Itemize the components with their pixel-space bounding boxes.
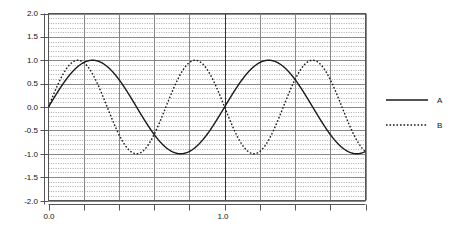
y-tick-label-1-5: 1.5 <box>12 32 38 41</box>
x-tick-label-1: 1.0 <box>208 212 238 221</box>
y-tick-label-1: 1.0 <box>12 56 38 65</box>
x-axis-ticks <box>50 205 367 211</box>
y-tick-label-neg-0-5: -0.5 <box>12 126 38 135</box>
chart-figure: 2.0 1.5 1.0 0.5 0.0 -0.5 -1.0 -1.5 -2.0 … <box>0 0 458 235</box>
legend-label-a: A <box>437 96 442 105</box>
y-tick-label-neg-1-5: -1.5 <box>12 173 38 182</box>
plot-canvas <box>0 0 458 235</box>
y-tick-label-neg-1: -1.0 <box>12 150 38 159</box>
y-tick-label-neg-2: -2.0 <box>12 197 38 206</box>
legend-label-b: B <box>437 121 442 130</box>
y-tick-label-2: 2.0 <box>12 9 38 18</box>
y-tick-label-0-5: 0.5 <box>12 79 38 88</box>
y-tick-label-0: 0.0 <box>12 103 38 112</box>
x-tick-label-0: 0.0 <box>34 212 64 221</box>
